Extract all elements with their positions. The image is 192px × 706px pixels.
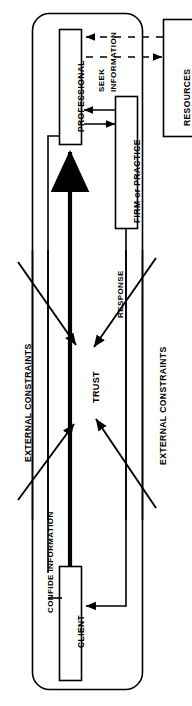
response-label: RESPONSE xyxy=(116,270,125,318)
client-label: CLIENT xyxy=(76,615,86,648)
resources-label: RESOURCES xyxy=(182,69,192,126)
seek-information-label-line2: INFORMATION xyxy=(109,32,118,92)
external-constraints-right-label: EXTERNAL CONSTRAINTS xyxy=(158,346,168,465)
firm-or-practice-label: FIRM or PRACTICE xyxy=(132,139,142,223)
seek-information-label-line1: SEEK xyxy=(97,69,106,92)
trust-label: TRUST xyxy=(91,371,101,403)
confide-information-label: CONFIDE INFORMATION xyxy=(46,511,55,613)
diagram-canvas: PROFESSIONAL FIRM or PRACTICE CLIENT RES… xyxy=(0,0,192,706)
external-constraints-left-label: EXTERNAL CONSTRAINTS xyxy=(23,343,33,462)
professional-label: PROFESSIONAL xyxy=(76,60,86,132)
